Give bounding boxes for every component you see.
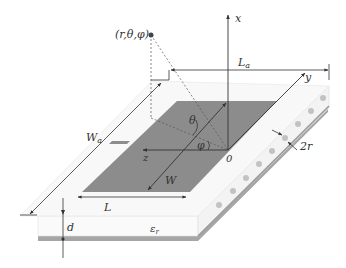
via (295, 121, 301, 127)
y-axis-label: y (304, 71, 312, 84)
phi-label: φ (197, 139, 205, 152)
la-label: La (237, 56, 250, 70)
via (243, 175, 249, 181)
z-axis-label: z (142, 152, 149, 163)
wa-label: Wa (86, 131, 102, 145)
patch-antenna-diagram: (r,θ,φ) x y z 0 W θ φ La Wa L d εr 2r (0, 0, 346, 268)
via (269, 148, 275, 154)
observation-point (149, 33, 154, 38)
feed-line (109, 141, 130, 144)
via-diameter-label: 2r (299, 140, 313, 153)
via (256, 161, 262, 167)
d-label: d (67, 221, 74, 234)
d-bottom-mark (61, 237, 64, 240)
w-label: W (165, 174, 178, 187)
via (308, 108, 314, 114)
via (282, 135, 288, 141)
via (216, 202, 222, 208)
via (320, 95, 326, 101)
l-label: L (103, 201, 111, 214)
theta-label: θ (189, 114, 196, 127)
point-label: (r,θ,φ) (115, 28, 149, 41)
origin-label: 0 (226, 153, 233, 164)
x-axis-label: x (235, 12, 242, 25)
right-angle-marker (151, 70, 169, 80)
substrate-front-face (38, 216, 198, 236)
via (230, 188, 236, 194)
